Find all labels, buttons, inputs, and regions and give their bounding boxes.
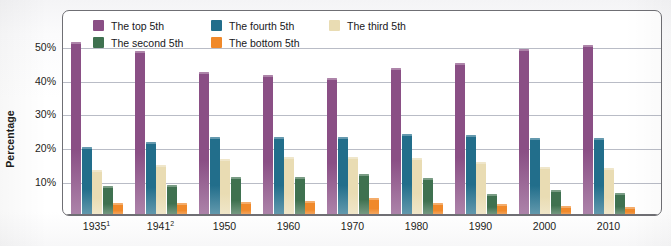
bar-1990-the-fourth-5th xyxy=(466,135,476,215)
x-tick-label-1960: 1960 xyxy=(277,220,300,232)
bar-1980-the-fourth-5th xyxy=(402,134,412,216)
legend-entry-the-second-5th[interactable]: The second 5th xyxy=(93,34,211,51)
y-tick-label-30: 30% xyxy=(22,108,56,120)
x-tick-label-1941: 19412 xyxy=(147,220,174,232)
bar-1935-the-third-5th xyxy=(92,170,102,215)
bar-highlight xyxy=(519,49,529,51)
bar-2010-the-top-5th xyxy=(583,45,593,215)
bar-highlight xyxy=(455,63,465,65)
y-tick-label-20: 20% xyxy=(22,142,56,154)
bar-2010-the-second-5th xyxy=(615,193,625,215)
x-tick-label-2000: 2000 xyxy=(533,220,556,232)
bar-highlight xyxy=(433,203,443,205)
bar-highlight xyxy=(177,203,187,205)
bar-1990-the-top-5th xyxy=(455,63,465,215)
bar-highlight xyxy=(295,177,305,179)
legend-swatch-icon xyxy=(211,20,222,31)
legend-label: The top 5th xyxy=(111,20,164,32)
bar-1960-the-third-5th xyxy=(284,157,294,215)
bar-highlight xyxy=(103,186,113,188)
bar-highlight xyxy=(263,75,273,77)
bar-highlight xyxy=(92,170,102,172)
bar-1980-the-second-5th xyxy=(423,178,433,215)
bar-highlight xyxy=(423,178,433,180)
bar-highlight xyxy=(466,135,476,137)
bar-1935-the-fourth-5th xyxy=(82,147,92,215)
legend-label: The bottom 5th xyxy=(229,37,300,49)
bar-1935-the-second-5th xyxy=(103,186,113,215)
bar-highlight xyxy=(497,204,507,206)
bar-2010-the-fourth-5th xyxy=(594,138,604,215)
bar-1970-the-fourth-5th xyxy=(338,137,348,215)
bar-highlight xyxy=(305,201,315,203)
bar-highlight xyxy=(540,167,550,169)
bar-1950-the-third-5th xyxy=(220,159,230,215)
bar-1950-the-fourth-5th xyxy=(210,137,220,215)
x-axis-baseline xyxy=(63,214,661,215)
y-tick-label-10: 10% xyxy=(22,176,56,188)
x-axis-tick-labels: 19351194121950196019701980199020002010 xyxy=(62,220,662,242)
bar-highlight xyxy=(476,162,486,164)
bar-1941-the-top-5th xyxy=(135,51,145,215)
bar-1990-the-third-5th xyxy=(476,162,486,215)
plot-area: The top 5thThe fourth 5thThe third 5thTh… xyxy=(62,10,662,216)
bar-2010-the-third-5th xyxy=(604,168,614,215)
y-axis-tick-labels: 10%20%30%40%50% xyxy=(22,0,56,246)
bar-highlight xyxy=(241,202,251,204)
bar-1941-the-second-5th xyxy=(167,185,177,216)
bar-highlight xyxy=(487,194,497,196)
bar-highlight xyxy=(71,42,81,44)
bar-2000-the-third-5th xyxy=(540,167,550,215)
bar-highlight xyxy=(146,142,156,144)
legend-swatch-icon xyxy=(329,20,340,31)
bar-highlight xyxy=(220,159,230,161)
legend-entry-the-fourth-5th[interactable]: The fourth 5th xyxy=(211,17,329,34)
bar-2000-the-second-5th xyxy=(551,190,561,215)
bar-highlight xyxy=(359,174,369,176)
bar-1990-the-second-5th xyxy=(487,194,497,215)
bar-highlight xyxy=(625,207,635,209)
bar-1935-the-top-5th xyxy=(71,42,81,215)
bar-chart-figure: Percentage 10%20%30%40%50% The top 5thTh… xyxy=(0,0,671,246)
bar-1970-the-second-5th xyxy=(359,174,369,215)
bar-2000-the-fourth-5th xyxy=(530,138,540,215)
bar-highlight xyxy=(82,147,92,149)
x-tick-label-1950: 1950 xyxy=(213,220,236,232)
bar-highlight xyxy=(135,51,145,53)
bar-1970-the-top-5th xyxy=(327,78,337,215)
legend-entry-the-bottom-5th[interactable]: The bottom 5th xyxy=(211,34,329,51)
bar-highlight xyxy=(338,137,348,139)
legend-label: The second 5th xyxy=(111,37,183,49)
legend-swatch-icon xyxy=(93,37,104,48)
bar-2000-the-top-5th xyxy=(519,49,529,215)
legend-entry-the-third-5th[interactable]: The third 5th xyxy=(329,17,447,34)
bar-1950-the-top-5th xyxy=(199,72,209,215)
legend-swatch-icon xyxy=(211,37,222,48)
chart-legend: The top 5thThe fourth 5thThe third 5thTh… xyxy=(93,17,447,51)
bar-highlight xyxy=(274,137,284,139)
bar-group-2000 xyxy=(519,11,572,215)
legend-entry-the-top-5th[interactable]: The top 5th xyxy=(93,17,211,34)
bar-highlight xyxy=(210,137,220,139)
bar-highlight xyxy=(604,168,614,170)
bar-1960-the-second-5th xyxy=(295,177,305,216)
bar-1941-the-third-5th xyxy=(156,165,166,215)
bar-1960-the-top-5th xyxy=(263,75,273,215)
y-tick-label-50: 50% xyxy=(22,41,56,53)
x-tick-label-1980: 1980 xyxy=(405,220,428,232)
bar-1950-the-second-5th xyxy=(231,177,241,215)
y-axis-title: Percentage xyxy=(4,84,16,194)
bar-highlight xyxy=(583,45,593,47)
bar-group-1990 xyxy=(455,11,508,215)
x-tick-label-1935: 19351 xyxy=(83,220,110,232)
bar-1941-the-fourth-5th xyxy=(146,142,156,215)
bar-1960-the-fourth-5th xyxy=(274,137,284,215)
bar-highlight xyxy=(551,190,561,192)
bar-highlight xyxy=(402,134,412,136)
bar-highlight xyxy=(156,165,166,167)
bar-highlight xyxy=(594,138,604,140)
bar-group-2010 xyxy=(583,11,636,215)
legend-label: The third 5th xyxy=(347,20,406,32)
bar-highlight xyxy=(348,157,358,159)
bar-highlight xyxy=(391,68,401,70)
